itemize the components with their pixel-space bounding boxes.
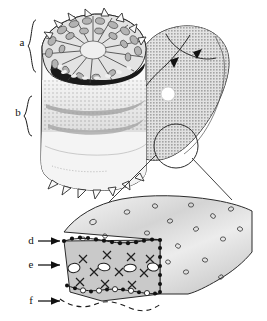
banded-zone-texture — [42, 80, 146, 132]
label-d: d — [28, 234, 34, 246]
white-dot-marker — [161, 87, 175, 101]
sectioned-organ — [41, 8, 146, 199]
label-f: f — [29, 294, 33, 306]
diagram-canvas: a b d e f — [0, 0, 267, 321]
label-e: e — [29, 258, 34, 270]
figure-root: a b d e f — [0, 0, 267, 321]
label-b: b — [15, 106, 21, 118]
label-a: a — [20, 36, 25, 48]
radial-center-core — [80, 41, 106, 59]
